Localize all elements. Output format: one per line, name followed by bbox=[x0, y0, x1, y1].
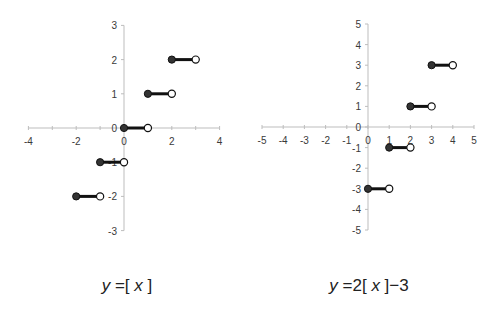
step-segment bbox=[73, 193, 104, 200]
chart-2floor-x-minus-3: -5-4-3-2-1012345-5-4-3-2-1012345 bbox=[258, 19, 478, 236]
step-segment bbox=[364, 185, 392, 192]
open-endpoint-dot bbox=[144, 124, 151, 131]
x-tick-label: -2 bbox=[321, 135, 330, 146]
formula-equals: = bbox=[343, 276, 353, 295]
open-endpoint-dot bbox=[428, 103, 435, 110]
y-tick-label: -3 bbox=[108, 226, 117, 237]
y-tick-label: 1 bbox=[111, 89, 117, 100]
closed-endpoint-dot bbox=[144, 90, 151, 97]
y-tick-label: -1 bbox=[352, 143, 361, 154]
step-segment bbox=[407, 103, 435, 110]
x-tick-label: 3 bbox=[429, 135, 435, 146]
formula-var-y: y bbox=[329, 276, 338, 295]
step-segment bbox=[144, 90, 175, 97]
y-tick-label: -4 bbox=[352, 204, 361, 215]
x-tick-label: 4 bbox=[450, 135, 456, 146]
closed-endpoint-dot bbox=[428, 62, 435, 69]
open-endpoint-dot bbox=[192, 56, 199, 63]
y-tick-label: 0 bbox=[111, 123, 117, 134]
closed-endpoint-dot bbox=[97, 159, 104, 166]
y-tick-label: -2 bbox=[352, 163, 361, 174]
formula-coefficient: 2 bbox=[352, 276, 361, 295]
y-tick-label: 0 bbox=[355, 122, 361, 133]
closed-endpoint-dot bbox=[73, 193, 80, 200]
formula-var-y: y bbox=[102, 276, 111, 295]
open-endpoint-dot bbox=[386, 185, 393, 192]
y-tick-label: 2 bbox=[355, 81, 361, 92]
x-tick-label: 5 bbox=[471, 135, 477, 146]
x-tick-label: 2 bbox=[169, 136, 175, 147]
y-tick-label: 3 bbox=[111, 20, 117, 31]
y-tick-label: 5 bbox=[355, 19, 361, 30]
formula-right: y =2[ x ]−3 bbox=[329, 276, 408, 296]
open-endpoint-dot bbox=[168, 90, 175, 97]
y-tick-label: -2 bbox=[108, 191, 117, 202]
closed-endpoint-dot bbox=[168, 56, 175, 63]
closed-endpoint-dot bbox=[120, 124, 127, 131]
formula-suffix: −3 bbox=[389, 276, 408, 295]
y-tick-label: -3 bbox=[352, 184, 361, 195]
formula-var-x: x bbox=[371, 276, 380, 295]
open-endpoint-dot bbox=[97, 193, 104, 200]
y-tick-label: 4 bbox=[355, 40, 361, 51]
x-tick-label: -2 bbox=[72, 136, 81, 147]
closed-endpoint-dot bbox=[364, 185, 371, 192]
x-tick-label: -4 bbox=[279, 135, 288, 146]
step-segment bbox=[386, 144, 414, 151]
formula-bracket-left: [ bbox=[362, 276, 367, 295]
open-endpoint-dot bbox=[120, 159, 127, 166]
formula-equals: = bbox=[115, 276, 125, 295]
open-endpoint-dot bbox=[449, 62, 456, 69]
closed-endpoint-dot bbox=[386, 144, 393, 151]
charts-canvas: -4-2024-3-2-10123 -5-4-3-2-1012345-5-4-3… bbox=[0, 0, 494, 317]
formula-bracket-left: [ bbox=[125, 276, 130, 295]
closed-endpoint-dot bbox=[407, 103, 414, 110]
chart-floor-x: -4-2024-3-2-10123 bbox=[24, 20, 223, 236]
step-segment bbox=[120, 124, 151, 131]
y-tick-label: 3 bbox=[355, 60, 361, 71]
open-endpoint-dot bbox=[407, 144, 414, 151]
x-tick-label: 4 bbox=[217, 136, 223, 147]
x-tick-label: 0 bbox=[121, 136, 127, 147]
step-segment bbox=[428, 62, 456, 69]
x-tick-label: -1 bbox=[342, 135, 351, 146]
y-tick-label: 1 bbox=[355, 101, 361, 112]
x-tick-label: -5 bbox=[258, 135, 267, 146]
formula-bracket-right: ] bbox=[148, 276, 153, 295]
formula-var-x: x bbox=[134, 276, 143, 295]
formula-left: y =[ x ] bbox=[102, 276, 153, 296]
x-tick-label: 0 bbox=[365, 135, 371, 146]
x-tick-label: -3 bbox=[300, 135, 309, 146]
y-tick-label: 2 bbox=[111, 55, 117, 66]
y-tick-label: -5 bbox=[352, 225, 361, 236]
step-segment bbox=[168, 56, 199, 63]
x-tick-label: -4 bbox=[24, 136, 33, 147]
